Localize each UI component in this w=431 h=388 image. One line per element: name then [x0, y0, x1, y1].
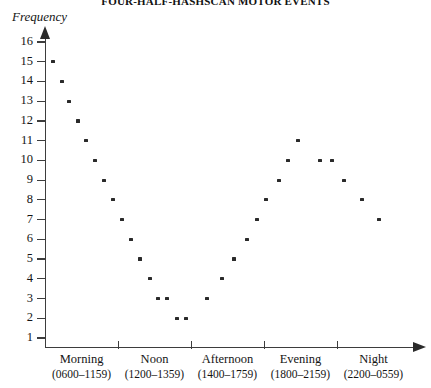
data-point — [51, 60, 54, 63]
data-point — [76, 119, 79, 122]
y-axis-tick-label: 9 — [0, 173, 33, 186]
data-point — [232, 257, 235, 260]
y-axis-tick — [37, 160, 46, 161]
x-axis-tick — [191, 341, 192, 349]
y-axis-tick-label: 4 — [0, 272, 33, 285]
y-axis-tick-label: 15 — [0, 55, 33, 68]
y-axis-tick-label: 1 — [0, 331, 33, 344]
y-axis-tick-label: 6 — [0, 232, 33, 245]
data-point — [330, 159, 333, 162]
data-point — [129, 238, 132, 241]
data-point — [156, 297, 159, 300]
y-axis-line — [45, 36, 46, 348]
data-point — [318, 159, 321, 162]
data-point — [148, 277, 151, 280]
data-point — [84, 139, 87, 142]
data-point — [184, 317, 187, 320]
y-axis-tick — [37, 258, 46, 259]
category-name: Night — [330, 352, 417, 367]
y-axis-tick — [37, 278, 46, 279]
y-axis-tick — [37, 239, 46, 240]
y-axis-tick — [37, 298, 46, 299]
y-axis-tick-label: 3 — [0, 292, 33, 305]
data-point — [165, 297, 168, 300]
data-point — [255, 218, 258, 221]
data-point — [220, 277, 223, 280]
y-axis-tick-label: 10 — [0, 153, 33, 166]
y-axis-tick — [37, 318, 46, 319]
x-axis-line — [45, 347, 414, 348]
category-time-range: (2200–0559) — [330, 367, 417, 382]
y-axis-tick-label: 8 — [0, 193, 33, 206]
scatter-chart: FOUR-HALF-HASHSCAN MOTOR EVENTS Frequenc… — [0, 0, 431, 388]
y-axis-tick — [37, 101, 46, 102]
x-axis-category-night: Night(2200–0559) — [330, 352, 417, 382]
y-axis-tick-label: 12 — [0, 114, 33, 127]
y-axis-tick — [37, 337, 46, 338]
data-point — [377, 218, 380, 221]
y-axis-label: Frequency — [12, 9, 67, 25]
y-axis-tick-label: 13 — [0, 94, 33, 107]
y-axis-tick — [37, 81, 46, 82]
data-point — [60, 80, 63, 83]
y-axis-tick — [37, 180, 46, 181]
x-axis-tick — [337, 341, 338, 349]
data-point — [67, 100, 70, 103]
y-axis-tick — [37, 120, 46, 121]
x-axis-arrow-icon — [413, 342, 426, 352]
x-axis-tick — [264, 341, 265, 349]
y-axis-tick-label: 7 — [0, 213, 33, 226]
data-point — [102, 179, 105, 182]
y-axis-tick-label: 14 — [0, 74, 33, 87]
data-point — [277, 179, 280, 182]
data-point — [93, 159, 96, 162]
y-axis-tick — [37, 199, 46, 200]
chart-title: FOUR-HALF-HASHSCAN MOTOR EVENTS — [0, 0, 431, 6]
data-point — [296, 139, 299, 142]
y-axis-tick-label: 2 — [0, 311, 33, 324]
data-point — [205, 297, 208, 300]
y-axis-tick — [37, 41, 46, 42]
data-point — [111, 198, 114, 201]
y-axis-tick-label: 16 — [0, 35, 33, 48]
data-point — [120, 218, 123, 221]
data-point — [138, 257, 141, 260]
y-axis-tick-label: 11 — [0, 134, 33, 147]
data-point — [286, 159, 289, 162]
data-point — [245, 238, 248, 241]
data-point — [360, 198, 363, 201]
data-point — [264, 198, 267, 201]
data-point — [175, 317, 178, 320]
y-axis-tick — [37, 61, 46, 62]
y-axis-arrow-icon — [40, 26, 50, 39]
y-axis-tick-label: 5 — [0, 252, 33, 265]
data-point — [342, 179, 345, 182]
x-axis-tick — [118, 341, 119, 349]
y-axis-tick — [37, 219, 46, 220]
y-axis-tick — [37, 140, 46, 141]
